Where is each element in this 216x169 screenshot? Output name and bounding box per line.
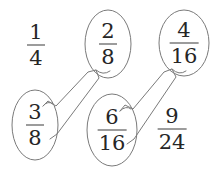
fraction-2-8: 2 8 [99, 21, 117, 68]
fraction-1-4: 1 4 [27, 22, 45, 69]
connector-band-left [43, 70, 99, 139]
fraction-denominator: 16 [170, 46, 199, 67]
connector-3-8-to-2-8 [43, 70, 99, 139]
fraction-denominator: 24 [158, 132, 187, 153]
fraction-denominator: 8 [27, 128, 42, 149]
fraction-3-8: 3 8 [26, 102, 44, 149]
fraction-denominator: 4 [28, 48, 43, 69]
fraction-4-16: 4 16 [170, 20, 199, 67]
fraction-numerator: 3 [27, 102, 42, 123]
fraction-numerator: 4 [176, 20, 191, 41]
fraction-numerator: 2 [100, 21, 115, 42]
notch-arc-2-8 [96, 70, 110, 73]
fraction-denominator: 8 [100, 47, 115, 68]
fraction-numerator: 6 [104, 107, 119, 128]
fraction-numerator: 1 [28, 22, 43, 43]
fraction-numerator: 9 [164, 106, 179, 127]
fraction-6-16: 6 16 [98, 107, 127, 154]
fraction-9-24: 9 24 [158, 106, 187, 153]
fraction-denominator: 16 [98, 133, 127, 154]
fraction-diagram-canvas: 1 4 2 8 4 16 3 8 6 16 9 24 [0, 0, 216, 169]
